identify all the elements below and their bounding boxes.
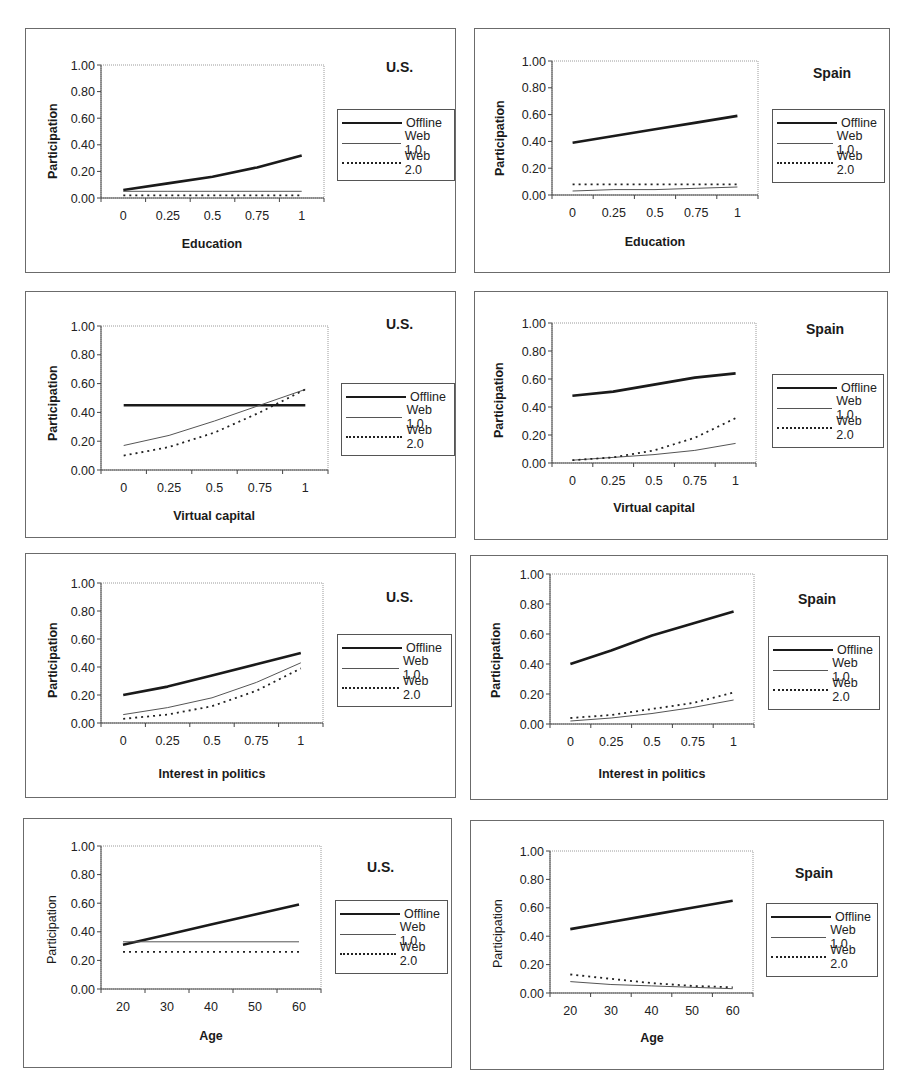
y-tick-label: 0.80 [522,81,546,95]
y-tick-label: 0.80 [522,345,546,359]
x-tick-label: 0.75 [684,206,708,220]
y-tick-label: 0.20 [71,435,95,449]
legend-swatch-icon [777,162,833,164]
legend-swatch-icon [771,956,826,958]
y-tick-label: 1.00 [71,59,95,73]
x-axis-title: Virtual capital [134,509,294,523]
country-title: U.S. [386,59,413,75]
y-tick-label: 0.00 [520,718,544,732]
y-axis-title: Participation [45,895,59,964]
y-tick-label: 0.00 [71,983,95,997]
x-axis-title: Interest in politics [132,767,292,781]
x-tick-label: 0.5 [203,734,220,748]
x-tick-label: 0.25 [602,206,626,220]
web1-line [570,700,733,721]
web2-line [572,418,735,460]
chart-panel: 0.000.200.400.600.801.0000.250.50.751Spa… [474,291,888,540]
y-tick-label: 0.40 [520,930,544,944]
x-tick-label: 0 [567,735,574,749]
x-tick-label: 1 [297,734,304,748]
legend-item-web2: Web 2.0 [777,418,879,438]
x-tick-label: 40 [645,1004,659,1018]
y-axis-title: Participation [46,622,60,698]
y-tick-label: 0.00 [520,987,544,1001]
y-tick-label: 0.20 [71,165,95,179]
chart-panel: 0.000.200.400.600.801.002030405060SpainP… [470,820,884,1070]
chart-panel: 0.000.200.400.600.801.0000.250.50.751U.S… [25,28,456,273]
country-title: Spain [795,865,833,881]
legend-swatch-icon [342,687,399,689]
x-tick-label: 1 [298,209,305,223]
y-tick-label: 0.60 [71,377,95,391]
y-tick-label: 1.00 [71,577,95,591]
x-tick-label: 0 [569,206,576,220]
x-tick-label: 40 [204,1000,218,1014]
x-tick-label: 0.75 [244,734,268,748]
legend-swatch-icon [773,689,828,691]
y-tick-label: 1.00 [71,840,95,854]
y-axis-title: Participation [46,365,60,441]
legend-swatch-icon [777,427,832,429]
legend-item-web2: Web 2.0 [777,153,880,173]
legend: OfflineWeb 1.0Web 2.0 [772,109,885,183]
x-tick-label: 1 [732,474,739,488]
offline-line [572,373,735,395]
x-tick-label: 0.5 [204,209,221,223]
y-axis-title: Participation [489,622,503,698]
legend-swatch-icon [346,436,402,438]
x-tick-label: 0.25 [157,481,181,495]
legend-swatch-icon [777,143,833,144]
y-tick-label: 0.40 [71,925,95,939]
x-axis-title: Age [131,1029,291,1043]
y-tick-label: 0.20 [520,688,544,702]
x-axis-title: Education [132,237,292,251]
y-tick-label: 1.00 [71,320,95,334]
legend-label: Offline [837,643,873,657]
x-tick-label: 0.5 [643,735,660,749]
y-tick-label: 0.80 [71,605,95,619]
legend-label: Web 2.0 [403,674,447,702]
legend: OfflineWeb 1.0Web 2.0 [337,109,455,181]
x-tick-label: 0 [120,734,127,748]
y-tick-label: 0.60 [520,628,544,642]
legend: OfflineWeb 1.0Web 2.0 [766,903,878,977]
x-tick-label: 0.25 [155,734,179,748]
x-tick-label: 60 [726,1004,740,1018]
plot-area [101,583,323,723]
y-tick-label: 0.40 [71,661,95,675]
y-tick-label: 0.60 [520,901,544,915]
legend-swatch-icon [773,649,833,651]
legend: OfflineWeb 1.0Web 2.0 [335,900,448,974]
x-tick-label: 0 [120,209,127,223]
y-axis-title: Participation [492,362,506,438]
x-tick-label: 0.5 [646,206,663,220]
legend-item-web2: Web 2.0 [773,680,875,700]
chart-panel: 0.000.200.400.600.801.0000.250.50.751U.S… [25,291,456,538]
legend-swatch-icon [777,387,837,389]
plot-area [101,846,321,989]
y-tick-label: 0.20 [522,429,546,443]
y-axis-title: Participation [493,100,507,176]
x-tick-label: 1 [730,735,737,749]
y-axis-title: Participation [491,899,505,968]
y-tick-label: 0.00 [71,464,95,478]
y-tick-label: 1.00 [520,845,544,859]
legend: OfflineWeb 1.0Web 2.0 [768,636,880,710]
x-axis-title: Education [575,235,735,249]
country-title: Spain [806,321,844,337]
legend-item-web2: Web 2.0 [342,153,450,173]
chart-panel: 0.000.200.400.600.801.002030405060U.S.Pa… [23,818,452,1068]
y-tick-label: 0.40 [522,401,546,415]
legend-swatch-icon [777,122,837,124]
y-tick-label: 0.00 [522,189,546,203]
legend-label: Web 2.0 [836,414,879,442]
y-tick-label: 0.20 [71,954,95,968]
y-tick-label: 0.40 [520,658,544,672]
legend-swatch-icon [342,162,401,164]
legend-label: Offline [841,381,877,395]
legend-label: Web 2.0 [830,943,873,971]
legend-item-web2: Web 2.0 [342,678,447,698]
plot-area [101,65,324,198]
legend-swatch-icon [340,934,396,935]
legend-label: Web 2.0 [405,149,450,177]
